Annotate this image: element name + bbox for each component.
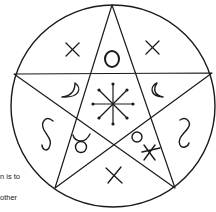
x-symbol-bottom	[106, 167, 122, 183]
s-symbol-right	[179, 119, 189, 147]
pentagram-diagram: n is to other	[0, 0, 216, 212]
taurus-icon	[73, 134, 90, 153]
x-symbol-top-left	[66, 43, 79, 56]
moon-right-icon	[152, 83, 163, 97]
x-symbol-top-right	[146, 41, 159, 54]
moon-left-icon	[62, 83, 79, 97]
s-symbol-left	[42, 119, 53, 150]
ox-symbol	[132, 132, 160, 160]
text-fragment-1: n is to	[0, 173, 20, 181]
text-fragment-2: other	[0, 194, 17, 202]
circle-symbol-top	[105, 51, 119, 67]
pentagram-svg	[0, 0, 216, 212]
